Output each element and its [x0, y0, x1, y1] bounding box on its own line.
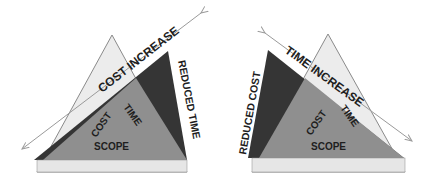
- project-triangle-diagrams: COST INCREASE REDUCED TIME COST TIME SCO…: [0, 0, 433, 184]
- base-band: [252, 158, 405, 172]
- base-band: [37, 160, 187, 172]
- right-diagram: TIME INCREASE REDUCED COST COST TIME SCO…: [236, 33, 412, 172]
- center-label-scope: SCOPE: [311, 141, 346, 152]
- center-label-scope: SCOPE: [94, 141, 129, 152]
- left-diagram: COST INCREASE REDUCED TIME COST TIME SCO…: [22, 13, 203, 172]
